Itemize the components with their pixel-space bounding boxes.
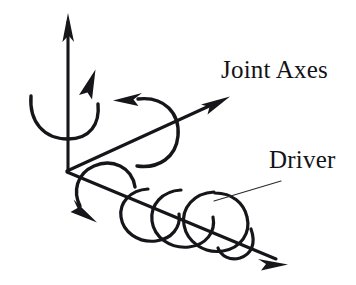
rotation-arc-vertical-path	[31, 96, 98, 139]
upper-right-axis-arrowhead	[201, 97, 230, 115]
helical-driver-coil	[121, 189, 253, 259]
vertical-joint-axis	[62, 13, 74, 172]
lower-right-axis-arrowhead	[258, 259, 288, 271]
joint-axes-figure: Joint Axes Driver	[0, 0, 356, 285]
driver-label: Driver	[269, 147, 335, 172]
rotation-arc-vertical-arrowhead	[79, 70, 96, 100]
joint-axes-label: Joint Axes	[221, 57, 328, 82]
rotation-arc-vertical-axis	[31, 70, 98, 140]
diagram-canvas	[0, 0, 356, 285]
upper-right-joint-axis	[67, 97, 230, 172]
rotation-arc-lower-axis	[71, 163, 136, 222]
rotation-arc-upper-path	[137, 99, 178, 167]
driver-leader-line	[214, 181, 281, 201]
rotation-arc-lower-arrowhead	[71, 200, 98, 223]
upper-right-axis-shaft	[67, 102, 218, 171]
rotation-arc-upper-axis	[113, 93, 178, 166]
